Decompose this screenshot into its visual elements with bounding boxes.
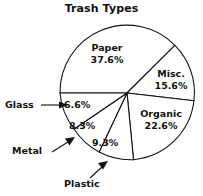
metal-callout-arrow bbox=[52, 137, 75, 152]
slice-label-paper: Paper 37.6% bbox=[79, 42, 135, 65]
slice-value-metal: 8.3% bbox=[69, 120, 95, 131]
slice-value-paper: 37.6% bbox=[91, 54, 124, 65]
slice-name-metal: Metal bbox=[12, 145, 42, 156]
plastic-callout-arrow bbox=[90, 161, 108, 178]
slice-name-paper: Paper bbox=[91, 42, 122, 53]
pie-chart-figure: Trash Types Paper 37.6% bbox=[0, 0, 203, 196]
slice-value-misc: 15.6% bbox=[155, 80, 188, 91]
slice-name-glass: Glass bbox=[5, 99, 34, 110]
slice-name-plastic: Plastic bbox=[64, 178, 100, 189]
slice-label-organic: Organic 22.6% bbox=[133, 108, 189, 131]
slice-name-misc: Misc. bbox=[157, 68, 185, 79]
pie-chart-graphic bbox=[0, 0, 203, 196]
slice-value-glass: 6.6% bbox=[64, 99, 90, 110]
slice-value-plastic: 9.3% bbox=[92, 137, 118, 148]
slice-name-organic: Organic bbox=[140, 108, 182, 119]
slice-value-organic: 22.6% bbox=[145, 120, 178, 131]
slice-label-misc: Misc. 15.6% bbox=[145, 68, 197, 91]
